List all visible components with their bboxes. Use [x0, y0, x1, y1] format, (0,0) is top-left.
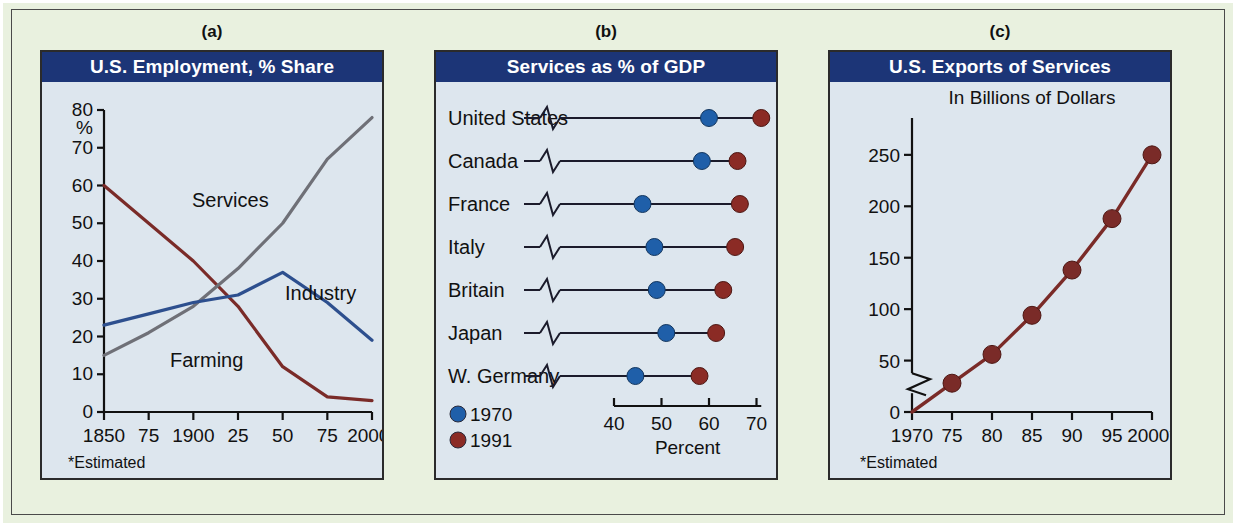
panel-c-ytick-250: 250	[868, 145, 900, 166]
panel-a-ytick-70: 70	[72, 137, 93, 158]
panel-b-plot-area: United StatesCanadaFranceItalyBritainJap…	[436, 82, 776, 478]
panel-c-ytick-200: 200	[868, 196, 900, 217]
panel-a-ytick-20: 20	[72, 326, 93, 347]
panel-b-dot-1970	[658, 325, 675, 342]
panel-b-xaxis-title: Percent	[655, 437, 721, 458]
panel-c-ytick-100: 100	[868, 299, 900, 320]
panel-c-footnote: *Estimated	[860, 454, 937, 471]
panel-letter-b: (b)	[434, 22, 778, 42]
panel-a-label-industry: Industry	[285, 282, 356, 304]
panel-b-category-label: W. Germany	[448, 365, 559, 387]
panel-a-line-services	[104, 118, 372, 356]
panel-c-data-point	[1063, 261, 1081, 279]
panel-b-axis-break-icon	[540, 322, 560, 344]
panel-b-axis-break-icon	[540, 193, 560, 215]
panel-c-data-point	[943, 374, 961, 392]
panel-b-category-label: Italy	[448, 236, 485, 258]
panel-a-title: U.S. Employment, % Share	[42, 52, 382, 82]
panel-a-xtick-1850: 1850	[83, 425, 125, 446]
panel-b-xtick-60: 60	[698, 413, 719, 434]
panel-b-chart: United StatesCanadaFranceItalyBritainJap…	[436, 82, 776, 480]
panel-b-dot-1970	[701, 110, 718, 127]
panel-b-dot-1970	[646, 239, 663, 256]
panel-b-dot-1970	[627, 368, 644, 385]
panel-a-ytick-40: 40	[72, 250, 93, 271]
panel-c-ytick-150: 150	[868, 248, 900, 269]
panel-a-y-unit: %	[76, 117, 93, 138]
panel-a-ytick-30: 30	[72, 288, 93, 309]
panel-letter-c: (c)	[828, 22, 1172, 42]
panel-c-xtick-2000*: 2000*	[1127, 425, 1170, 446]
panel-a-footnote: *Estimated	[68, 454, 145, 471]
panel-b-category-label: France	[448, 193, 510, 215]
panel-a-plot-area: 01020304050607080%18507519002550752000*S…	[42, 82, 382, 478]
panel-a-label-farming: Farming	[170, 349, 243, 371]
panel-c-chart: In Billions of Dollars050100150200250197…	[830, 82, 1170, 480]
panel-b-category-label: Canada	[448, 150, 519, 172]
panel-a-ytick-10: 10	[72, 363, 93, 384]
panel-a-chart: 01020304050607080%18507519002550752000*S…	[42, 82, 382, 480]
panel-a-label-services: Services	[192, 189, 269, 211]
panel-c-data-point	[983, 345, 1001, 363]
panel-a-xtick-75: 75	[317, 425, 338, 446]
panel-c-ytick-0: 0	[889, 402, 900, 423]
panel-b-dot-1970	[648, 282, 665, 299]
panel-b-legend-label-1970: 1970	[470, 404, 512, 425]
panel-c-title: U.S. Exports of Services	[830, 52, 1170, 82]
figure-root: (a) U.S. Employment, % Share 01020304050…	[0, 0, 1236, 526]
panel-c-xtick-85: 85	[1021, 425, 1042, 446]
panel-a-xtick-2000*: 2000*	[347, 425, 382, 446]
panel-c-xtick-75: 75	[941, 425, 962, 446]
panel-b-legend-label-1991: 1991	[470, 430, 512, 451]
panel-a-ytick-0: 0	[82, 401, 93, 422]
panel-c-data-point	[1023, 306, 1041, 324]
panel-b-dot-1991	[729, 153, 746, 170]
panel-c-subtitle: In Billions of Dollars	[949, 87, 1116, 108]
panel-a-ytick-50: 50	[72, 212, 93, 233]
panel-b-category-label: Japan	[448, 322, 503, 344]
panel-b-xtick-50: 50	[651, 413, 672, 434]
panel-b-dot-1991	[753, 110, 770, 127]
panel-c-ytick-50: 50	[879, 351, 900, 372]
panel-c-data-point	[1143, 146, 1161, 164]
panel-b-dot-1970	[634, 196, 651, 213]
panel-c-xtick-80: 80	[981, 425, 1002, 446]
panel-c-xtick-95: 95	[1101, 425, 1122, 446]
panel-b-axis-break-icon	[540, 279, 560, 301]
panel-b-dot-1991	[715, 282, 732, 299]
figure-inner-frame: (a) U.S. Employment, % Share 01020304050…	[11, 9, 1225, 515]
panel-b-category-label: Britain	[448, 279, 505, 301]
panel-b-title: Services as % of GDP	[436, 52, 776, 82]
panel-a-employment: U.S. Employment, % Share 010203040506070…	[40, 50, 384, 480]
panel-b-dot-1991	[691, 368, 708, 385]
panel-c-exports: U.S. Exports of Services In Billions of …	[828, 50, 1172, 480]
panel-a-xtick-1900: 1900	[172, 425, 214, 446]
panel-a-xtick-75: 75	[138, 425, 159, 446]
panel-b-xtick-70: 70	[746, 413, 767, 434]
panel-b-dot-1970	[693, 153, 710, 170]
panel-c-plot-area: In Billions of Dollars050100150200250197…	[830, 82, 1170, 478]
panel-b-legend-swatch-1970	[450, 406, 466, 422]
panel-b-dot-1991	[708, 325, 725, 342]
panel-b-dot-1991	[731, 196, 748, 213]
panel-b-axis-break-icon	[540, 150, 560, 172]
panel-c-xtick-1970: 1970	[891, 425, 933, 446]
panel-c-line	[912, 155, 1152, 412]
panel-a-xtick-25: 25	[227, 425, 248, 446]
panel-b-legend-swatch-1991	[450, 432, 466, 448]
panel-c-xtick-90: 90	[1061, 425, 1082, 446]
panel-b-services-gdp: Services as % of GDP United StatesCanada…	[434, 50, 778, 480]
panel-b-dot-1991	[727, 239, 744, 256]
panel-b-axis-break-icon	[540, 236, 560, 258]
panel-a-ytick-60: 60	[72, 175, 93, 196]
panel-c-data-point	[1103, 210, 1121, 228]
panel-a-xtick-50: 50	[272, 425, 293, 446]
panel-c-axis-break-icon	[908, 373, 930, 395]
panel-letter-a: (a)	[40, 22, 384, 42]
panel-b-xtick-40: 40	[603, 413, 624, 434]
